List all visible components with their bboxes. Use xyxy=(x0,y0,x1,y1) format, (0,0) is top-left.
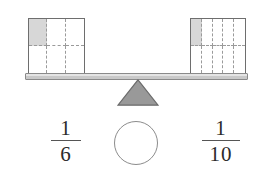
fraction-model-one-sixth xyxy=(28,18,85,74)
grid-cell xyxy=(234,19,245,46)
comparison-answer-circle[interactable] xyxy=(114,121,158,165)
grid-cell xyxy=(66,19,84,46)
grid-cell xyxy=(47,19,65,46)
beam-highlight xyxy=(26,74,247,76)
grid-cell xyxy=(223,19,234,46)
fraction-denominator: 6 xyxy=(42,144,90,165)
grid-cell xyxy=(213,46,224,73)
grid-cell-shaded xyxy=(29,19,47,46)
fraction-model-one-tenth xyxy=(190,18,246,74)
fulcrum-triangle-icon xyxy=(117,79,159,106)
grid-cell xyxy=(29,46,47,73)
fraction-bar xyxy=(202,140,240,141)
grid-cell xyxy=(234,46,245,73)
balance-scale-diagram: 1 6 1 10 xyxy=(0,0,263,173)
grid-cell xyxy=(202,19,213,46)
fraction-denominator: 10 xyxy=(195,144,247,165)
grid-cell xyxy=(47,46,65,73)
grid-cell xyxy=(191,46,202,73)
grid-cell xyxy=(202,46,213,73)
grid-cell-shaded xyxy=(191,19,202,46)
fraction-label-left: 1 6 xyxy=(42,118,90,165)
grid-cell xyxy=(213,19,224,46)
fraction-label-right: 1 10 xyxy=(195,118,247,165)
grid-cell xyxy=(223,46,234,73)
fraction-numerator: 1 xyxy=(195,118,247,138)
grid-cell xyxy=(66,46,84,73)
fraction-numerator: 1 xyxy=(42,118,90,138)
fraction-bar xyxy=(51,140,81,141)
